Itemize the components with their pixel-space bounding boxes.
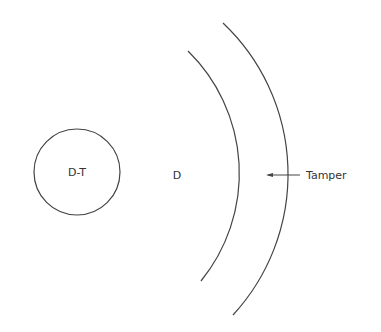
tamper-inner-boundary-arc (188, 51, 239, 281)
tamper-label: Tamper (305, 169, 347, 182)
tamper-outer-boundary-arc (223, 23, 288, 315)
tamper-arrow (266, 173, 300, 177)
diagram-svg: D-T D Tamper (0, 0, 381, 332)
arrow-head-icon (266, 173, 273, 177)
dt-core-label: D-T (68, 166, 86, 179)
diagram-canvas: D-T D Tamper (0, 0, 381, 332)
fuel-region-label: D (173, 169, 181, 182)
